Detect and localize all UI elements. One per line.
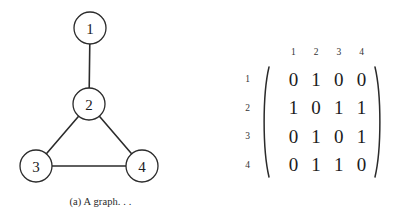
matrix-cell-2-3: 1 <box>327 94 350 123</box>
matrix-right-bracket-cell <box>373 65 397 179</box>
matrix-grid: 123410100210113010140110 <box>237 38 397 179</box>
matrix-cell-3-1: 0 <box>282 122 305 151</box>
matrix-header-spacer-left <box>258 38 282 65</box>
matrix-cell-2-4: 1 <box>350 94 373 123</box>
matrix-cell-3-3: 0 <box>327 122 350 151</box>
matrix-corner-blank <box>237 38 258 65</box>
adjacency-matrix: 123410100210113010140110 <box>237 38 397 179</box>
graph-node-1: 1 <box>74 12 106 44</box>
matrix-column-header-4: 4 <box>350 38 373 65</box>
graph-node-2: 2 <box>73 88 105 120</box>
matrix-cell-3-4: 1 <box>350 122 373 151</box>
matrix-cell-1-2: 1 <box>305 65 328 94</box>
matrix-left-paren <box>258 65 271 179</box>
matrix-column-header-1: 1 <box>282 38 305 65</box>
graph-node-label-2: 2 <box>85 97 93 113</box>
matrix-cell-2-2: 0 <box>305 94 328 123</box>
graph-node-3: 3 <box>20 150 52 182</box>
matrix-cell-2-1: 1 <box>282 94 305 123</box>
matrix-right-paren <box>373 65 386 179</box>
matrix-cell-1-4: 0 <box>350 65 373 94</box>
matrix-column-header-2: 2 <box>305 38 328 65</box>
matrix-row: 10100 <box>237 65 397 94</box>
caption-subfigure-a: (a) A graph. . . <box>0 196 201 207</box>
matrix-row-header-2: 2 <box>237 94 258 123</box>
matrix-cell-4-4: 0 <box>350 151 373 180</box>
graph-drawing: 1234 <box>0 0 201 190</box>
matrix-cell-4-1: 0 <box>282 151 305 180</box>
matrix-header-row: 1234 <box>237 38 397 65</box>
graph-node-label-3: 3 <box>32 159 40 175</box>
graph-node-4: 4 <box>126 150 158 182</box>
matrix-header-spacer-right <box>373 38 397 65</box>
matrix-cell-4-2: 1 <box>305 151 328 180</box>
graph-edge-1-2 <box>89 44 90 88</box>
matrix-row-header-3: 3 <box>237 122 258 151</box>
matrix-row-header-4: 4 <box>237 151 258 180</box>
matrix-column-header-3: 3 <box>327 38 350 65</box>
graph-node-group: 1234 <box>20 12 158 182</box>
graph-node-label-4: 4 <box>138 159 146 175</box>
graph-edge-2-3 <box>46 116 78 154</box>
matrix-row-header-1: 1 <box>237 65 258 94</box>
graph-node-label-1: 1 <box>86 21 94 37</box>
subfigure-matrix: 123410100210113010140110 (b) . . . and i… <box>201 0 403 218</box>
matrix-cell-1-3: 0 <box>327 65 350 94</box>
graph-edge-2-4 <box>99 116 131 154</box>
matrix-cell-1-1: 0 <box>282 65 305 94</box>
figure-container: 1234 (a) A graph. . . 123410100210113010… <box>0 0 403 218</box>
matrix-cell-4-3: 1 <box>327 151 350 180</box>
subfigure-graph: 1234 (a) A graph. . . <box>0 0 201 218</box>
matrix-left-bracket-cell <box>258 65 282 179</box>
matrix-cell-3-2: 1 <box>305 122 328 151</box>
